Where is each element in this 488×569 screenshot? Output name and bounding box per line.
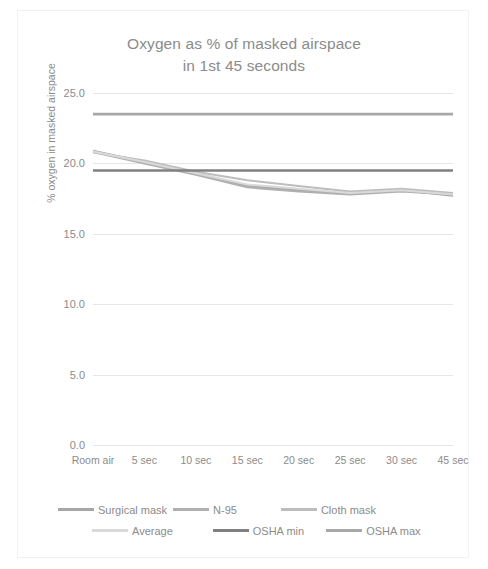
legend-item[interactable]: OSHA min <box>213 525 304 537</box>
legend-item[interactable]: Surgical mask <box>58 504 167 516</box>
legend-swatch-icon <box>326 529 362 532</box>
legend-label: N-95 <box>213 504 237 516</box>
legend-label: Cloth mask <box>321 504 376 516</box>
y-axis-tick-label: 0.0 <box>70 439 85 451</box>
legend-item[interactable]: N-95 <box>173 504 237 516</box>
legend-item[interactable]: OSHA max <box>326 525 420 537</box>
legend-row-2: AverageOSHA minOSHA max <box>58 520 430 541</box>
legend-swatch-icon <box>92 529 128 532</box>
legend-item[interactable]: Average <box>92 525 173 537</box>
y-axis-tick-label: 5.0 <box>70 369 85 381</box>
gridline <box>93 445 453 446</box>
legend-swatch-icon <box>281 508 317 511</box>
legend-swatch-icon <box>213 529 249 532</box>
legend-swatch-icon <box>58 508 94 511</box>
legend-label: OSHA max <box>366 525 420 537</box>
x-axis-tick-label: 20 sec <box>283 454 314 466</box>
legend-item[interactable]: Cloth mask <box>281 504 376 516</box>
legend-row-1: Surgical maskN-95Cloth mask <box>58 499 430 520</box>
y-axis-tick-label: 25.0 <box>64 87 85 99</box>
x-axis-tick-label: 45 sec <box>438 454 469 466</box>
x-axis-tick-label: Room air <box>72 454 115 466</box>
x-axis-tick-label: 25 sec <box>335 454 366 466</box>
chart-legend: Surgical maskN-95Cloth mask AverageOSHA … <box>58 499 430 541</box>
y-axis-tick-label: 20.0 <box>64 157 85 169</box>
x-axis-tick-label: 30 sec <box>386 454 417 466</box>
y-axis-tick-label: 10.0 <box>64 298 85 310</box>
legend-label: Surgical mask <box>98 504 167 516</box>
plot-wrapper: % oxygen in masked airspace 0.05.010.015… <box>18 11 470 559</box>
legend-label: OSHA min <box>253 525 304 537</box>
plot-area: % oxygen in masked airspace 0.05.010.015… <box>93 93 453 445</box>
legend-swatch-icon <box>173 508 209 511</box>
x-axis-tick-label: 5 sec <box>132 454 157 466</box>
x-axis-tick-label: 15 sec <box>232 454 263 466</box>
chart-card: Oxygen as % of masked airspace in 1st 45… <box>17 10 469 558</box>
y-axis-title: % oxygen in masked airspace <box>45 23 57 243</box>
legend-label: Average <box>132 525 173 537</box>
series-lines <box>93 93 453 445</box>
y-axis-tick-label: 15.0 <box>64 228 85 240</box>
x-axis-tick-label: 10 sec <box>180 454 211 466</box>
